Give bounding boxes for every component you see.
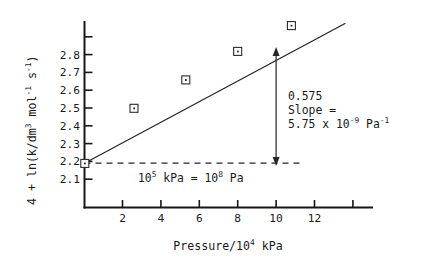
baseline-note: 105 kPa = 108 Pa <box>138 170 244 185</box>
slope-value-unit-exponent: -1 <box>380 116 390 125</box>
y-axis-title-b: mol <box>25 96 39 124</box>
y-axis-title-c-exponent: -1 <box>24 62 33 72</box>
y-axis-title-b-exponent: -1 <box>24 86 33 96</box>
x-axis-title-base: Pressure/10 <box>173 239 250 253</box>
y-tick-label: 2.1 <box>60 173 80 186</box>
data-point-origin <box>81 159 89 167</box>
y-tick-label: 2.6 <box>60 84 80 97</box>
x-tick-label: 6 <box>196 212 203 225</box>
slope-rise-arrow <box>273 47 280 166</box>
chart-figure: 2.8 2.7 2.6 2.5 2.4 2.3 2.2 2.1 2 4 6 8 … <box>0 0 430 265</box>
x-tick-labels: 2 4 6 8 10 12 <box>119 212 321 225</box>
slope-annotation: 0.575 Slope = 5.75 x 10-9 Pa-1 <box>288 89 390 131</box>
x-axis-title-unit: kPa <box>255 239 283 253</box>
slope-value: 5.75 x 10-9 Pa-1 <box>288 116 390 131</box>
x-tick-label: 2 <box>119 212 126 225</box>
x-tick-marks <box>123 200 353 208</box>
x-tick-label: 8 <box>234 212 241 225</box>
y-axis-title-c: s <box>25 72 39 86</box>
y-tick-label: 2.8 <box>60 49 80 62</box>
slope-label: Slope = <box>288 103 336 117</box>
data-point <box>287 22 295 30</box>
data-point <box>234 47 242 55</box>
baseline-note-a: 10 <box>138 171 152 185</box>
y-axis-title: 4 + ln(k/dm3 mol-1 s-1) <box>24 56 39 205</box>
x-tick-label: 10 <box>269 212 283 225</box>
x-tick-label: 4 <box>158 212 165 225</box>
x-axis-title: Pressure/104 kPa <box>173 238 282 253</box>
y-tick-label: 2.2 <box>60 155 80 168</box>
delta-label: 0.575 <box>288 89 322 103</box>
y-axis-title-a: 4 + ln(k/dm <box>25 128 39 205</box>
y-tick-label: 2.3 <box>60 138 80 151</box>
baseline-note-c: Pa <box>223 171 244 185</box>
data-points <box>81 22 296 168</box>
slope-value-unit: Pa <box>359 117 380 131</box>
y-tick-label: 2.4 <box>60 120 80 133</box>
x-tick-label: 12 <box>308 212 321 225</box>
y-tick-label: 2.7 <box>60 66 80 79</box>
arrow-head-down <box>273 157 280 166</box>
baseline-note-b: kPa = 10 <box>156 171 218 185</box>
y-tick-label: 2.5 <box>60 102 80 115</box>
slope-value-exponent: -9 <box>350 116 360 125</box>
data-point <box>182 76 190 84</box>
y-axis-title-d: ) <box>25 56 39 63</box>
slope-value-base: 5.75 x 10 <box>288 117 350 131</box>
y-tick-labels: 2.8 2.7 2.6 2.5 2.4 2.3 2.2 2.1 <box>60 49 80 187</box>
data-point <box>130 104 138 112</box>
plot-canvas: 2.8 2.7 2.6 2.5 2.4 2.3 2.2 2.1 2 4 6 8 … <box>0 0 430 265</box>
arrow-head-up <box>273 47 280 56</box>
y-tick-marks <box>85 37 93 179</box>
